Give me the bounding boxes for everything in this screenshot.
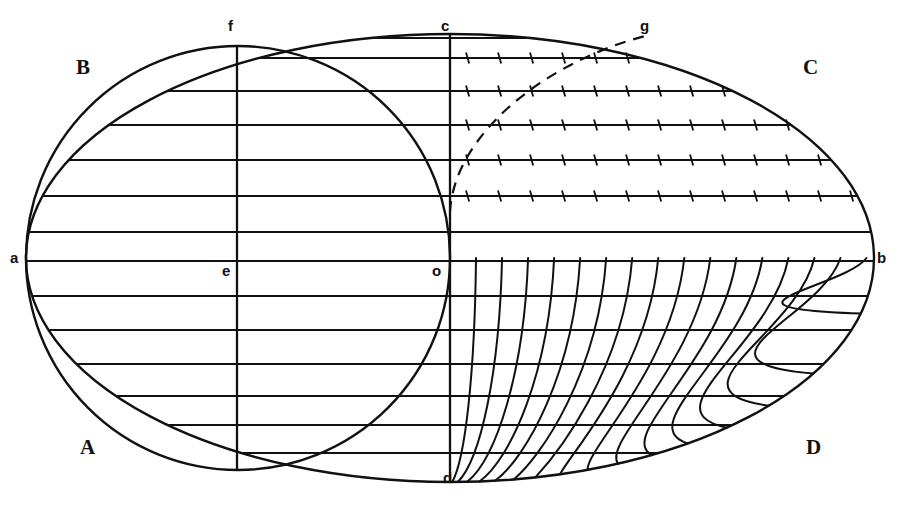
label-point-d: d <box>443 470 452 485</box>
meridian-curve <box>782 258 866 314</box>
meridian-curve <box>535 258 632 477</box>
label-region-D: D <box>806 437 821 458</box>
label-point-o: o <box>432 263 441 278</box>
straight-meridians-group <box>237 34 450 482</box>
label-region-A: A <box>80 437 95 458</box>
dashed-curve-o-to-g <box>450 36 645 212</box>
meridian-curve <box>755 258 840 373</box>
projection-diagram-svg <box>0 0 899 505</box>
curved-meridians-group <box>452 258 866 482</box>
dashed-oblique-curve <box>450 36 645 212</box>
label-point-a: a <box>10 250 18 265</box>
figure-canvas: B A C D a b f e c o d g <box>0 0 899 505</box>
label-region-C: C <box>803 57 818 78</box>
label-point-e: e <box>222 263 230 278</box>
label-point-f: f <box>228 18 233 33</box>
meridian-curve <box>458 258 502 482</box>
label-point-g: g <box>640 18 649 33</box>
label-point-c: c <box>441 18 449 33</box>
meridian-curve <box>452 258 476 482</box>
label-region-B: B <box>76 57 90 78</box>
label-point-b: b <box>877 250 886 265</box>
